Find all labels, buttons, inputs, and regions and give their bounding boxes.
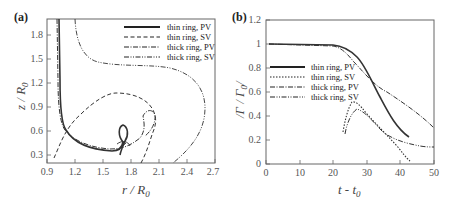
x-tick-label: 40 — [395, 167, 405, 178]
y-tick-label: 1.2 — [249, 14, 262, 25]
panel-a-x-axis-label: r / R0 — [122, 182, 150, 199]
x-tick-label: 0.9 — [41, 166, 54, 177]
curve-thin-ring-sv — [343, 102, 410, 161]
legend-label: thick ring, SV — [311, 92, 360, 102]
panel-a-legend: thin ring, PV thin ring, SV thick ring, … — [124, 22, 216, 62]
panel-a-label: (a) — [14, 10, 28, 24]
x-tick-label: 20 — [328, 167, 338, 178]
x-tick-label: 1.8 — [125, 166, 138, 177]
panel-a-y-ticks: 0.3 0.6 0.9 1.2 1.5 1.8 — [31, 29, 52, 160]
figure: (a) 0.3 0.6 0.9 1.2 1.5 1.8 0.9 — [0, 0, 451, 207]
panel-b-y-axis-label: /Γ / Γ0/ — [232, 80, 249, 119]
curve-thin-ring-sv — [54, 93, 156, 163]
x-tick-label: 30 — [362, 167, 372, 178]
y-tick-label: 0 — [256, 158, 261, 169]
legend-label: thin ring, PV — [311, 62, 356, 72]
legend-label: thin ring, PV — [167, 22, 212, 32]
y-tick-label: 0.2 — [249, 134, 262, 145]
y-tick-label: 0.3 — [31, 149, 44, 160]
x-tick-label: 2.1 — [153, 166, 166, 177]
x-tick-label: 1.5 — [97, 166, 110, 177]
panel-b: (b) 0 0.2 0.4 0.6 0.8 1 1.2 — [232, 10, 439, 199]
panel-b-legend: thin ring, PV thin ring, SV thick ring, … — [270, 62, 360, 102]
x-tick-label: 0 — [264, 167, 269, 178]
y-tick-label: 0.9 — [31, 101, 44, 112]
legend-label: thick ring, SV — [167, 52, 216, 62]
panel-a-y-axis-label: z / R0 — [13, 82, 30, 111]
curve-thick-ring-pv — [57, 19, 155, 149]
panel-a: (a) 0.3 0.6 0.9 1.2 1.5 1.8 0.9 — [13, 10, 219, 199]
panel-b-x-axis-label: t - t0 — [338, 182, 361, 199]
y-tick-label: 0.4 — [249, 110, 262, 121]
y-tick-label: 0.6 — [249, 86, 262, 97]
legend-label: thick ring, PV — [311, 82, 360, 92]
x-tick-label: 50 — [429, 167, 439, 178]
panel-a-x-ticks: 0.9 1.2 1.5 1.8 2.1 2.4 2.7 — [41, 159, 220, 177]
x-tick-label: 2.4 — [181, 166, 194, 177]
panel-b-x-ticks: 0 10 20 30 40 50 — [264, 160, 440, 178]
y-tick-label: 1.8 — [31, 29, 44, 40]
legend-label: thin ring, SV — [311, 72, 356, 82]
legend-label: thick ring, PV — [167, 42, 216, 52]
y-tick-label: 0.8 — [249, 62, 262, 73]
x-tick-label: 10 — [295, 167, 305, 178]
legend-label: thin ring, SV — [167, 32, 212, 42]
panel-b-label: (b) — [232, 10, 247, 24]
y-tick-label: 0.6 — [31, 125, 44, 136]
x-tick-label: 1.2 — [69, 166, 82, 177]
panel-b-y-ticks: 0 0.2 0.4 0.6 0.8 1 1.2 — [249, 14, 271, 169]
y-tick-label: 1.5 — [31, 53, 44, 64]
x-tick-label: 2.7 — [207, 166, 220, 177]
y-tick-label: 1.2 — [31, 77, 44, 88]
y-tick-label: 1 — [256, 38, 261, 49]
